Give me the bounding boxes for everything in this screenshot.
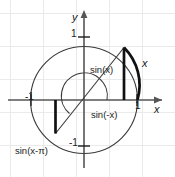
tick-label-x-negative: -1 <box>25 92 34 102</box>
label-sin-x-minus-pi: sin(x-π) <box>15 146 48 156</box>
x-axis-label: x <box>154 104 160 115</box>
tick-label-x-positive: 1 <box>135 101 141 111</box>
unit-circle-figure: y x 1 -1 1 -1 sin(x) sin(-x) sin(x-π) x <box>0 0 175 177</box>
y-axis-label: y <box>72 12 78 23</box>
radius-diagonal-line <box>56 48 125 134</box>
label-sin-neg-x: sin(-x) <box>91 110 117 120</box>
label-sin-x: sin(x) <box>90 65 113 75</box>
tick-label-y-positive: 1 <box>71 29 77 39</box>
tick-label-y-negative: -1 <box>69 138 78 148</box>
label-arc-x: x <box>142 58 148 69</box>
